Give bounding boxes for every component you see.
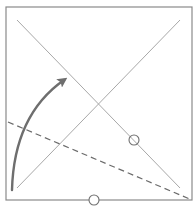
reference-circle-marker xyxy=(89,195,99,205)
origami-fold-diagram xyxy=(0,0,194,211)
